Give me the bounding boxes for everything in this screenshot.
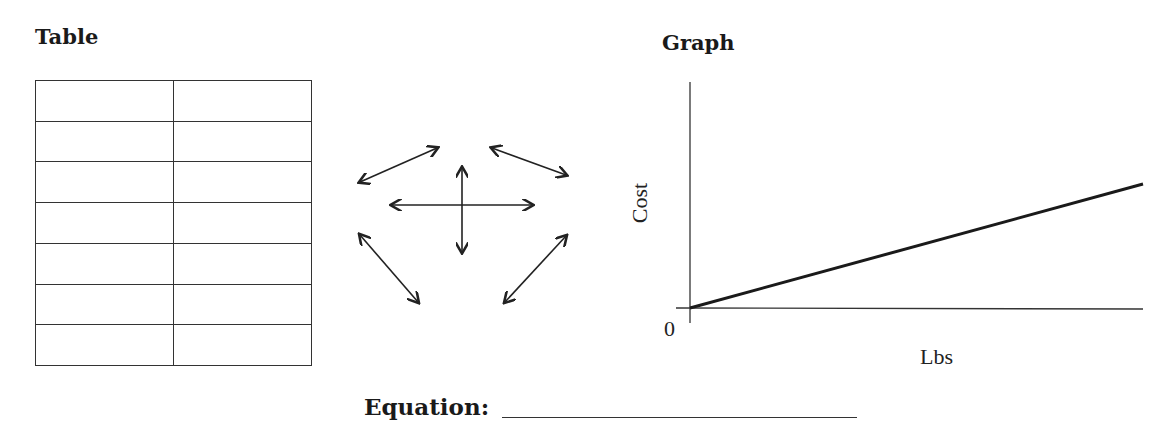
x-axis-label: Lbs xyxy=(920,344,953,370)
equation-label: Equation: xyxy=(364,393,489,420)
graph-title: Graph xyxy=(662,30,735,55)
double-arrow-icon xyxy=(360,235,418,302)
equation-answer-line[interactable] xyxy=(502,417,857,418)
drawing-layer xyxy=(0,0,1172,427)
double-arrow-icon xyxy=(360,148,437,182)
double-arrow-icon xyxy=(492,148,566,175)
arrows-group xyxy=(360,148,566,302)
y-axis-label: Cost xyxy=(627,173,653,233)
double-arrow-icon xyxy=(505,236,566,302)
x-axis xyxy=(676,308,1143,309)
graph-axes xyxy=(676,82,1143,323)
data-line xyxy=(690,184,1143,308)
origin-label: 0 xyxy=(664,316,675,342)
